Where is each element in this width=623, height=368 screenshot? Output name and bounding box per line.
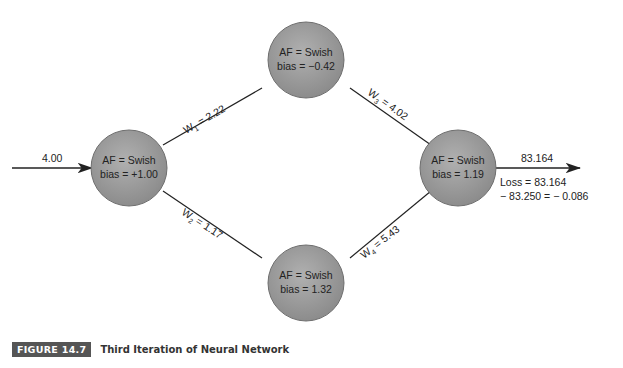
input-value: 4.00 — [42, 152, 63, 164]
node-bottom: AF = Swish bias = 1.32 — [268, 245, 344, 321]
figure-badge: FIGURE 14.7 — [12, 342, 91, 357]
node-af-label: AF = Swish — [279, 46, 333, 58]
node-af-label: AF = Swish — [102, 154, 156, 166]
node-af-label: AF = Swish — [431, 154, 485, 166]
node-top: AF = Swish bias = −0.42 — [268, 22, 344, 98]
weight-w2-label: W2 = 1.17 — [179, 206, 226, 243]
node-af-label: AF = Swish — [279, 269, 333, 281]
node-bias-label: bias = 1.32 — [280, 283, 332, 295]
node-output: AF = Swish bias = 1.19 — [420, 130, 496, 206]
node-bias-label: bias = −0.42 — [277, 60, 335, 72]
node-bias-label: bias = +1.00 — [100, 168, 158, 180]
loss-line-1: Loss = 83.164 — [500, 176, 566, 188]
neural-network-diagram: AF = Swish bias = +1.00 AF = Swish bias … — [0, 0, 623, 368]
node-input-hidden: AF = Swish bias = +1.00 — [91, 130, 167, 206]
weight-w3-label: W3 = 4.02 — [365, 86, 411, 124]
node-bias-label: bias = 1.19 — [432, 168, 484, 180]
edge-w3 — [350, 88, 431, 145]
output-value: 83.164 — [521, 152, 553, 164]
weight-w1-label: W1 = 2.22 — [181, 102, 228, 137]
figure-title: Third Iteration of Neural Network — [100, 344, 289, 355]
weight-w4-label: W4 = 5.43 — [358, 223, 403, 263]
loss-line-2: − 83.250 = − 0.086 — [500, 190, 589, 202]
figure-caption: FIGURE 14.7 Third Iteration of Neural Ne… — [12, 342, 289, 357]
